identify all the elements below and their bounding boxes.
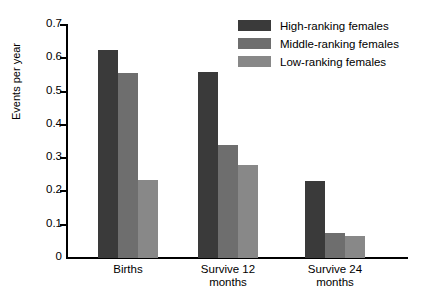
legend-item: Middle-ranking females (238, 35, 399, 52)
bar-group (98, 24, 158, 258)
y-tick-mark (60, 57, 67, 59)
bar (305, 181, 325, 258)
y-tick-mark (60, 124, 67, 126)
x-category-label: Survive 24months (275, 263, 395, 289)
x-category-label-line: Survive 12 (168, 263, 288, 276)
bar (98, 50, 118, 258)
x-category-label-line: months (168, 276, 288, 289)
y-tick-mark (60, 24, 67, 26)
bar (138, 180, 158, 258)
y-tick-label: 0 (24, 251, 62, 263)
legend: High-ranking femalesMiddle-ranking femal… (238, 17, 399, 71)
y-tick-label: 0.2 (24, 184, 62, 196)
x-category-label-line: months (275, 276, 395, 289)
bar (325, 233, 345, 258)
y-tick-mark (60, 91, 67, 93)
bar (198, 72, 218, 258)
legend-label: Low-ranking females (280, 56, 386, 68)
bar-chart: Events per year 0.70.60.50.40.30.20.10 B… (0, 0, 422, 298)
x-category-label-line: Survive 24 (275, 263, 395, 276)
y-tick-mark (60, 190, 67, 192)
y-tick-label: 0.4 (24, 118, 62, 130)
y-tick-mark (60, 157, 67, 159)
y-tick-mark (60, 224, 67, 226)
legend-label: High-ranking females (280, 20, 389, 32)
y-axis-title: Events per year (10, 0, 22, 120)
legend-swatch (238, 20, 271, 31)
legend-item: High-ranking females (238, 17, 399, 34)
x-category-label: Survive 12months (168, 263, 288, 289)
y-axis-tick-labels: 0.70.60.50.40.30.20.10 (22, 0, 62, 298)
legend-item: Low-ranking females (238, 53, 399, 70)
y-tick-label: 0.3 (24, 151, 62, 163)
legend-label: Middle-ranking females (280, 38, 399, 50)
y-tick-label: 0.5 (24, 85, 62, 97)
bar (218, 145, 238, 258)
legend-swatch (238, 38, 271, 49)
legend-swatch (238, 56, 271, 67)
bar (238, 165, 258, 258)
bar (345, 236, 365, 258)
bar (118, 73, 138, 258)
y-tick-label: 0.6 (24, 51, 62, 63)
y-tick-label: 0.7 (24, 18, 62, 30)
y-tick-label: 0.1 (24, 218, 62, 230)
